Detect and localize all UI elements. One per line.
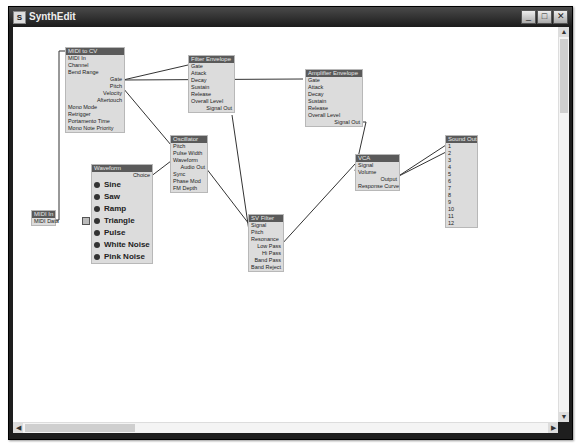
pin-phase-mod[interactable]: Phase Mod: [171, 178, 207, 185]
module-amplifier-envelope[interactable]: Amplifier Envelope Gate Attack Decay Sus…: [305, 69, 363, 127]
pin-gate[interactable]: Gate: [66, 76, 124, 83]
app-icon: S: [13, 11, 26, 24]
pin-gate[interactable]: Gate: [306, 77, 362, 84]
pin-band-pass[interactable]: Band Pass: [249, 257, 283, 264]
option-white-noise[interactable]: White Noise: [92, 239, 152, 251]
wire-vca-to-out1: [397, 145, 446, 177]
pin-overall-level[interactable]: Overall Level: [189, 98, 234, 105]
option-pulse[interactable]: Pulse: [92, 227, 152, 239]
pin-gate[interactable]: Gate: [189, 63, 234, 70]
pin-hi-pass[interactable]: Hi Pass: [249, 250, 283, 257]
module-title: Waveform: [92, 165, 152, 172]
window-title: SynthEdit: [29, 11, 76, 22]
pin-mono-note-priority[interactable]: Mono Note Priority: [66, 125, 124, 132]
pin-pitch[interactable]: Pitch: [171, 143, 207, 150]
pin-pitch[interactable]: Pitch: [249, 229, 283, 236]
pin-pulse-width[interactable]: Pulse Width: [171, 150, 207, 157]
title-bar[interactable]: S SynthEdit _ □ ✕: [9, 7, 572, 27]
scroll-right-arrow-icon[interactable]: ▶: [548, 423, 558, 433]
pin-signal[interactable]: Signal: [249, 222, 283, 229]
pin-6[interactable]: 6: [446, 178, 477, 185]
scroll-up-arrow-icon[interactable]: ▲: [559, 27, 569, 37]
pin-1[interactable]: 1: [446, 143, 477, 150]
pin-signal-out[interactable]: Signal Out: [306, 119, 362, 126]
option-saw[interactable]: Saw: [92, 191, 152, 203]
pin-waveform[interactable]: Waveform: [171, 157, 207, 164]
wire-choice-to-waveform: [150, 161, 171, 177]
radio-icon: [94, 218, 100, 224]
pin-aftertouch[interactable]: Aftertouch: [66, 97, 124, 104]
vertical-scrollbar[interactable]: ▲ ▼: [558, 27, 569, 422]
pin-decay[interactable]: Decay: [306, 91, 362, 98]
minimize-button[interactable]: _: [521, 10, 536, 24]
pin-signal[interactable]: Signal: [356, 162, 399, 169]
pin-mono-mode[interactable]: Mono Mode: [66, 104, 124, 111]
pin-8[interactable]: 8: [446, 192, 477, 199]
close-button[interactable]: ✕: [553, 10, 568, 24]
option-triangle[interactable]: Triangle: [92, 215, 152, 227]
pin-overall-level[interactable]: Overall Level: [306, 112, 362, 119]
pin-bend-range[interactable]: Bend Range: [66, 69, 124, 76]
option-ramp[interactable]: Ramp: [92, 203, 152, 215]
maximize-button[interactable]: □: [537, 10, 552, 24]
pin-attack[interactable]: Attack: [189, 70, 234, 77]
pin-channel[interactable]: Channel: [66, 62, 124, 69]
module-title: SV Filter: [249, 215, 283, 222]
pin-band-reject[interactable]: Band Reject: [249, 264, 283, 271]
horizontal-scrollbar[interactable]: ◀ ▶: [13, 422, 558, 433]
option-sine[interactable]: Sine: [92, 179, 152, 191]
pin-9[interactable]: 9: [446, 199, 477, 206]
pin-5[interactable]: 5: [446, 171, 477, 178]
pin-choice[interactable]: Choice: [92, 172, 152, 179]
pin-pitch[interactable]: Pitch: [66, 83, 124, 90]
radio-icon: [94, 182, 100, 188]
patch-canvas[interactable]: MIDI to CV MIDI In Channel Bend Range Ga…: [13, 27, 558, 422]
pin-12[interactable]: 12: [446, 220, 477, 227]
pin-release[interactable]: Release: [189, 91, 234, 98]
module-sound-out[interactable]: Sound Out 1 2 3 4 5 6 7 8 9 10 11 12: [445, 135, 478, 228]
pin-audio-out[interactable]: Audio Out: [171, 164, 207, 171]
pin-10[interactable]: 10: [446, 206, 477, 213]
pin-portamento-time[interactable]: Portamento Time: [66, 118, 124, 125]
pin-7[interactable]: 7: [446, 185, 477, 192]
radio-icon: [94, 194, 100, 200]
scroll-down-arrow-icon[interactable]: ▼: [559, 412, 569, 422]
wire-pitch-to-osc: [123, 88, 171, 145]
scroll-left-arrow-icon[interactable]: ◀: [13, 423, 23, 433]
pin-retrigger[interactable]: Retrigger: [66, 111, 124, 118]
radio-icon: [94, 242, 100, 248]
synthedit-window: S SynthEdit _ □ ✕: [8, 6, 573, 440]
pin-attack[interactable]: Attack: [306, 84, 362, 91]
pin-low-pass[interactable]: Low Pass: [249, 243, 283, 250]
pin-release[interactable]: Release: [306, 105, 362, 112]
pin-decay[interactable]: Decay: [189, 77, 234, 84]
module-filter-envelope[interactable]: Filter Envelope Gate Attack Decay Sustai…: [188, 55, 235, 113]
horizontal-scroll-thumb[interactable]: [25, 424, 135, 432]
pin-output[interactable]: Output: [356, 176, 399, 183]
pin-3[interactable]: 3: [446, 157, 477, 164]
pin-sustain[interactable]: Sustain: [306, 98, 362, 105]
pin-11[interactable]: 11: [446, 213, 477, 220]
pin-sync[interactable]: Sync: [171, 171, 207, 178]
wire-vca-to-out2: [397, 152, 446, 177]
pin-fm-depth[interactable]: FM Depth: [171, 185, 207, 192]
pin-velocity[interactable]: Velocity: [66, 90, 124, 97]
pin-response-curve[interactable]: Response Curve: [356, 183, 399, 190]
pin-resonance[interactable]: Resonance: [249, 236, 283, 243]
module-midi-to-cv[interactable]: MIDI to CV MIDI In Channel Bend Range Ga…: [65, 47, 125, 133]
module-title: Filter Envelope: [189, 56, 234, 63]
module-sv-filter[interactable]: SV Filter Signal Pitch Resonance Low Pas…: [248, 214, 284, 272]
pin-volume[interactable]: Volume: [356, 169, 399, 176]
module-waveform[interactable]: Waveform Choice Sine Saw Ramp Triangle P…: [91, 164, 153, 264]
vertical-scroll-thumb[interactable]: [560, 39, 568, 113]
module-vca[interactable]: VCA Signal Volume Output Response Curve: [355, 154, 400, 191]
module-midi-in[interactable]: MIDI In MIDI Data: [31, 210, 56, 226]
pin-midi-in[interactable]: MIDI In: [66, 55, 124, 62]
module-oscillator[interactable]: Oscillator Pitch Pulse Width Waveform Au…: [170, 135, 208, 193]
pin-sustain[interactable]: Sustain: [189, 84, 234, 91]
pin-midi-data[interactable]: MIDI Data: [32, 218, 55, 225]
pin-4[interactable]: 4: [446, 164, 477, 171]
pin-signal-out[interactable]: Signal Out: [189, 105, 234, 112]
option-pink-noise[interactable]: Pink Noise: [92, 251, 152, 263]
pin-2[interactable]: 2: [446, 150, 477, 157]
